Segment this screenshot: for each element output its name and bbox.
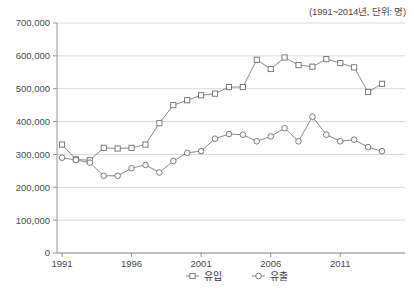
legend-marker-circle [256, 273, 262, 279]
data-point-marker [240, 132, 246, 138]
data-point-marker [338, 60, 343, 65]
data-point-marker [226, 131, 232, 137]
y-axis-tick-label: 500,000 [16, 83, 50, 94]
data-point-marker [212, 91, 217, 96]
data-point-marker [115, 146, 120, 151]
y-axis-tick-label: 600,000 [16, 50, 50, 61]
data-point-marker [199, 93, 204, 98]
data-series-group [59, 55, 385, 179]
chart-container: (1991~2014년, 단위: 명) 0100,000200,000300,0… [0, 0, 414, 290]
data-point-marker [115, 173, 121, 179]
legend-item-유입[interactable]: 유입 [186, 270, 222, 282]
data-point-marker [254, 57, 259, 62]
data-point-marker [87, 160, 93, 166]
series-line [62, 58, 382, 161]
data-point-marker [185, 98, 190, 103]
y-axis-tick-label: 300,000 [16, 149, 50, 160]
x-axis-tick-label: 1996 [121, 258, 142, 269]
data-point-marker [365, 144, 371, 150]
data-point-marker [254, 138, 260, 144]
y-axis-tick-label: 200,000 [16, 182, 50, 193]
data-point-marker [73, 157, 79, 163]
x-axis-tick-label: 2011 [330, 258, 350, 269]
series-line [62, 117, 382, 176]
data-point-marker [129, 145, 134, 150]
data-point-marker [171, 158, 177, 164]
data-point-marker [226, 84, 231, 89]
data-point-marker [268, 66, 273, 71]
y-axis-tick-labels: 0100,000200,000300,000400,000500,000600,… [16, 17, 50, 258]
legend-label: 유입 [204, 270, 222, 282]
x-axis-tick-label: 1991 [51, 258, 72, 269]
data-point-marker [282, 55, 287, 60]
series-1 [59, 55, 384, 163]
data-point-marker [143, 142, 148, 147]
data-point-marker [351, 137, 357, 143]
y-axis-tick-label: 700,000 [16, 17, 50, 28]
data-point-marker [296, 138, 302, 144]
data-point-marker [59, 142, 64, 147]
data-point-marker [157, 121, 162, 126]
data-point-marker [171, 103, 176, 108]
data-point-marker [129, 165, 135, 171]
data-point-marker [59, 155, 65, 161]
data-point-marker [379, 148, 385, 154]
legend-item-유출[interactable]: 유출 [252, 271, 288, 282]
legend-label: 유출 [270, 271, 288, 282]
data-point-marker [324, 57, 329, 62]
data-point-marker [240, 84, 245, 89]
data-point-marker [337, 138, 343, 144]
data-point-marker [101, 145, 106, 150]
data-point-marker [268, 134, 274, 140]
y-axis-tick-label: 400,000 [16, 116, 50, 127]
legend-marker-square [190, 273, 195, 278]
data-point-marker [324, 132, 330, 138]
chart-legend: 유입유출 [186, 270, 288, 282]
data-point-marker [184, 150, 190, 156]
data-point-marker [352, 65, 357, 70]
line-chart-plot: 0100,000200,000300,000400,000500,000600,… [0, 0, 414, 290]
series-2 [59, 114, 385, 179]
x-axis-tick-label: 2006 [260, 258, 281, 269]
y-axis-tick-label: 0 [45, 247, 50, 258]
x-axis-tick-labels: 19911996200120062011 [51, 258, 350, 269]
data-point-marker [310, 64, 315, 69]
data-point-marker [310, 114, 316, 120]
data-point-marker [198, 148, 204, 154]
x-axis-tick-label: 2001 [191, 258, 212, 269]
data-point-marker [282, 125, 288, 131]
data-point-marker [296, 62, 301, 67]
data-point-marker [101, 173, 107, 179]
data-point-marker [143, 162, 149, 168]
y-axis-tick-label: 100,000 [16, 215, 50, 226]
data-point-marker [379, 81, 384, 86]
data-point-marker [157, 170, 163, 176]
data-point-marker [365, 89, 370, 94]
data-point-marker [212, 136, 218, 142]
